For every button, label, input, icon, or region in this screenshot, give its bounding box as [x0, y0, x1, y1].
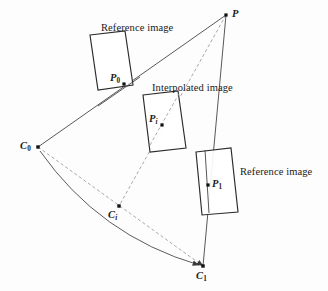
caption-reference-image-right: Reference image — [240, 167, 312, 178]
label-point-P1: P1 — [212, 179, 222, 190]
point-markers — [36, 13, 227, 267]
caption-interpolated-image: Interpolated image — [152, 83, 233, 94]
label-point-C0: C0 — [20, 141, 31, 152]
caption-reference-image-top: Reference image — [101, 23, 173, 34]
point-marker-Pi — [160, 123, 163, 126]
ray-p-to-c1 — [203, 15, 226, 266]
point-marker-Ci — [117, 204, 120, 207]
view-interpolation-figure: Reference image Interpolated image Refer… — [0, 0, 328, 291]
point-marker-C0 — [36, 145, 39, 148]
point-marker-P0 — [122, 82, 125, 85]
label-point-Ci: Ci — [108, 210, 117, 221]
label-point-Pi: Pi — [149, 114, 157, 125]
point-marker-P1 — [206, 183, 209, 186]
diagram-canvas — [0, 0, 328, 291]
label-point-P0: P0 — [110, 73, 120, 84]
label-point-C1: C1 — [196, 271, 207, 282]
point-marker-P — [224, 13, 227, 16]
point-marker-C1 — [201, 264, 204, 267]
camera-path-arc — [40, 151, 199, 265]
ray-group — [38, 15, 226, 266]
label-point-P: P — [232, 9, 238, 20]
